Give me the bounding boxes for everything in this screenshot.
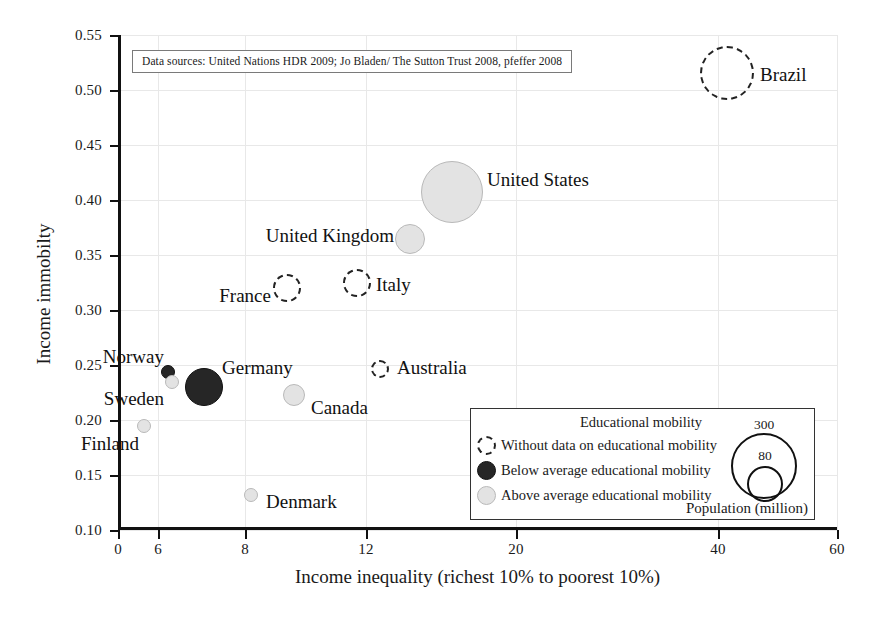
size-legend-circle-80 (747, 466, 783, 502)
gridline-vertical (837, 35, 838, 530)
y-tick-label: 0.55 (32, 27, 102, 44)
bubble-canada[interactable] (283, 384, 305, 406)
x-tick-label: 20 (486, 541, 546, 558)
y-tick (110, 90, 119, 92)
x-tick-label: 60 (807, 541, 867, 558)
y-tick (110, 255, 119, 257)
x-tick-label: 40 (688, 541, 748, 558)
point-label-denmark: Denmark (266, 491, 337, 513)
point-label-norway: Norway (103, 346, 164, 368)
bubble-united-states[interactable] (421, 161, 483, 223)
x-tick (837, 530, 839, 539)
x-tick-label: 6 (128, 541, 188, 558)
legend-entry-above[interactable]: Above average educational mobility (477, 486, 712, 505)
point-label-canada: Canada (311, 397, 368, 419)
y-tick-label: 0.10 (32, 522, 102, 539)
bubble-france[interactable] (273, 274, 301, 302)
point-label-united-states: United States (487, 169, 589, 191)
y-tick-label: 0.15 (32, 467, 102, 484)
source-note: Data sources: United Nations HDR 2009; J… (132, 50, 572, 73)
legend-entry-nodata[interactable]: Without data on educational mobility (477, 436, 717, 455)
legend-entry-label: Below average educational mobility (501, 462, 711, 479)
bubble-brazil[interactable] (700, 46, 754, 100)
x-tick (366, 530, 368, 539)
x-axis-title: Income inequality (richest 10% to poores… (118, 566, 837, 588)
gridline-horizontal (118, 530, 837, 531)
legend-title: Educational mobility (531, 414, 751, 431)
bubble-italy[interactable] (343, 269, 371, 297)
x-tick (118, 530, 120, 539)
y-tick-label: 0.50 (32, 82, 102, 99)
x-tick (718, 530, 720, 539)
x-tick-label: 8 (215, 541, 275, 558)
chart-canvas: 0.550.500.450.400.350.300.250.200.150.10… (0, 0, 879, 620)
point-label-sweden: Sweden (104, 388, 164, 410)
bubble-sweden[interactable] (165, 375, 179, 389)
y-tick (110, 310, 119, 312)
point-label-germany: Germany (222, 357, 293, 379)
legend-entry-label: Above average educational mobility (501, 487, 712, 504)
bubble-finland[interactable] (137, 419, 151, 433)
population-caption: Population (million) (686, 500, 808, 517)
legend: Educational mobility Without data on edu… (470, 408, 815, 520)
bubble-united-kingdom[interactable] (395, 224, 425, 254)
y-tick (110, 475, 119, 477)
point-label-brazil: Brazil (760, 64, 806, 86)
point-label-australia: Australia (397, 357, 467, 379)
point-label-france: France (219, 285, 271, 307)
y-axis-title: Income immobilty (33, 124, 55, 464)
y-tick (110, 200, 119, 202)
size-legend-label-80: 80 (756, 448, 774, 464)
point-label-finland: Finland (81, 433, 139, 455)
y-tick (110, 35, 119, 37)
y-tick (110, 420, 119, 422)
point-label-united-kingdom: United Kingdom (266, 225, 394, 247)
legend-swatch-below-icon (477, 461, 496, 480)
y-tick (110, 145, 119, 147)
point-label-italy: Italy (376, 274, 411, 296)
size-legend-label-300: 300 (752, 417, 776, 433)
x-tick-label: 12 (336, 541, 396, 558)
bubble-germany[interactable] (185, 368, 223, 406)
x-tick (516, 530, 518, 539)
legend-entry-label: Without data on educational mobility (501, 437, 717, 454)
legend-swatch-above-icon (477, 486, 496, 505)
x-tick (245, 530, 247, 539)
bubble-denmark[interactable] (244, 488, 258, 502)
legend-entry-below[interactable]: Below average educational mobility (477, 461, 711, 480)
legend-swatch-nodata-icon (477, 436, 496, 455)
x-tick (158, 530, 160, 539)
bubble-australia[interactable] (371, 360, 389, 378)
